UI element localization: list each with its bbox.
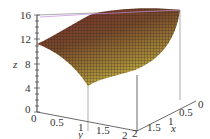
z-tick-label: 8 <box>25 59 31 70</box>
x-tick-label: 0.5 <box>179 107 193 118</box>
y-tick-label: 0 <box>31 113 37 124</box>
z-tick-label: 12 <box>20 34 31 45</box>
x-tick-label: 2 <box>132 128 138 139</box>
x-tick-label: 1.5 <box>147 122 161 133</box>
surface <box>37 8 180 86</box>
z-tick-label: 0 <box>25 104 31 115</box>
z-axis-title: z <box>13 59 17 70</box>
x-axis-title: x <box>171 123 176 134</box>
y-tick-label: 1.5 <box>96 125 110 136</box>
y-tick-label: 2 <box>122 130 128 139</box>
y-tick-label: 0.5 <box>50 117 64 128</box>
z-tick-label: 16 <box>20 10 31 21</box>
y-axis-title: y <box>78 129 83 139</box>
x-tick-label: 0 <box>198 99 204 110</box>
z-tick-label: 4 <box>25 83 31 94</box>
